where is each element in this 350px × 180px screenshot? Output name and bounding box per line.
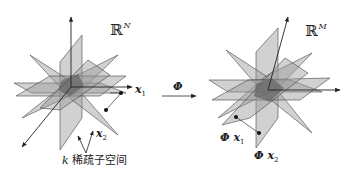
point-phi-x1 — [234, 115, 238, 119]
point-x1 — [119, 91, 123, 95]
label-x1: x1 — [135, 84, 146, 98]
space-label-rm: ℝM — [305, 23, 327, 39]
left-points-link — [106, 93, 121, 110]
label-x2: x2 — [96, 128, 107, 142]
caption-arrows — [78, 131, 93, 153]
point-phi-x2 — [257, 131, 261, 135]
mapping-symbol-phi: Φ — [173, 81, 183, 92]
point-x2 — [104, 108, 108, 112]
space-label-rn: ℝN — [110, 22, 130, 38]
label-phi-x1: Φ x1 — [220, 132, 244, 146]
caption-k-sparse-subspace: k 稀疏子空间 — [62, 155, 127, 166]
label-phi-x2: Φ x2 — [254, 150, 278, 164]
